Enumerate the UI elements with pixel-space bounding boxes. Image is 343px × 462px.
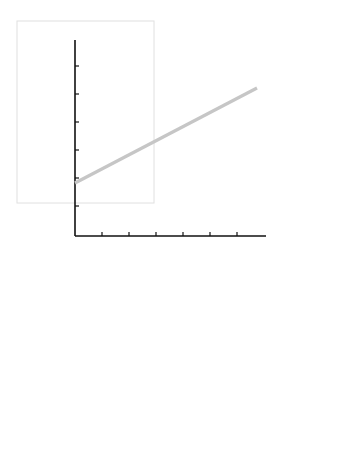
- figure: [0, 0, 343, 462]
- line-c1-i-g: [75, 88, 257, 183]
- frame-hidden: [17, 21, 153, 203]
- panel-a: [75, 40, 266, 236]
- panel-frame: [17, 21, 154, 203]
